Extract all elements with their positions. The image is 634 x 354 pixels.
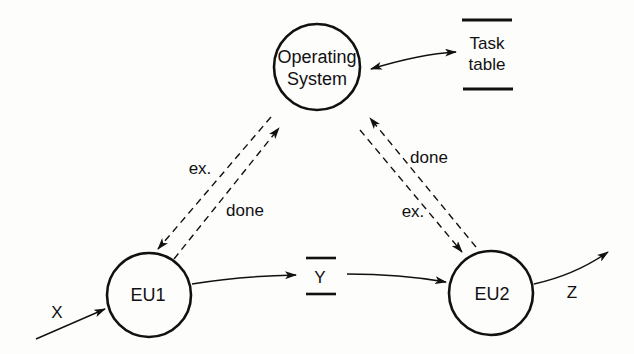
os-label-line2: System (287, 69, 347, 89)
eu2-to-os-done-label: done (410, 148, 448, 167)
y-label: Y (314, 268, 325, 287)
arrow-y-to-eu2 (347, 274, 446, 282)
node-eu1: EU1 (107, 253, 191, 337)
arrow-os-to-eu1-ex (158, 117, 271, 249)
eu1-to-os-done-label: done (226, 201, 264, 220)
diagram-canvas: Operating System Task table EU1 EU2 Y X … (0, 0, 634, 354)
x-label: X (51, 303, 62, 322)
node-eu2: EU2 (449, 251, 533, 335)
arrow-eu2-to-z (534, 252, 608, 284)
store-task-table: Task table (462, 20, 513, 89)
task-table-label-line1: Task (470, 34, 505, 53)
arrow-eu1-to-y (192, 275, 296, 284)
store-y: Y (306, 258, 336, 294)
node-operating-system: Operating System (274, 24, 360, 110)
os-to-eu2-ex-label: ex. (402, 202, 425, 221)
eu1-label: EU1 (130, 285, 165, 305)
arrow-x-to-eu1 (36, 309, 105, 339)
arrow-os-task-table (371, 52, 456, 69)
arrow-eu1-to-os-done (174, 128, 279, 259)
os-to-eu1-ex-label: ex. (189, 159, 212, 178)
os-label-line1: Operating (277, 47, 356, 67)
task-table-label-line2: table (469, 55, 506, 74)
z-label: Z (567, 283, 577, 302)
arrow-eu2-to-os-done (370, 118, 476, 247)
eu2-label: EU2 (474, 284, 509, 304)
